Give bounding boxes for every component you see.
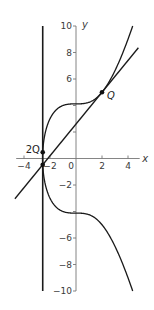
x-tick-label: 4	[125, 161, 131, 171]
y-tick-label: −8	[59, 260, 73, 270]
points: Q2Q	[26, 90, 115, 167]
point-marker	[40, 162, 45, 167]
y-tick-label: −6	[59, 233, 73, 243]
y-tick-label: −2	[59, 180, 72, 190]
point-q-label: Q	[107, 90, 115, 101]
elliptic-curve-chart: −4−2024−10−8−6−26810yx Q2Q	[0, 0, 154, 310]
x-tick-label: 0	[68, 161, 74, 171]
x-tick-label: −4	[17, 161, 31, 171]
point-marker	[100, 90, 105, 95]
tangent-line	[15, 48, 138, 199]
y-tick-label: 8	[66, 48, 72, 58]
y-tick-label: 10	[61, 21, 73, 31]
y-tick-label: −10	[53, 286, 72, 296]
x-axis-label: x	[141, 153, 148, 164]
y-tick-label: 6	[66, 74, 72, 84]
x-tick-label: 2	[99, 161, 105, 171]
point-2q-label: 2Q	[26, 144, 40, 155]
y-axis-label: y	[81, 19, 89, 30]
point-marker	[40, 150, 45, 155]
